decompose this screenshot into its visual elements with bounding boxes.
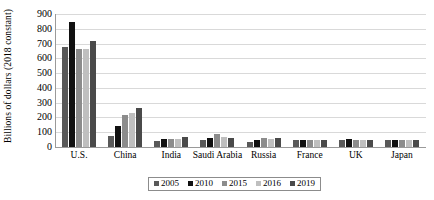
bar [321, 140, 327, 147]
bar [367, 140, 373, 147]
bar [161, 139, 167, 147]
bar [90, 41, 96, 147]
bar [175, 139, 181, 147]
bar [314, 140, 320, 147]
bar [300, 140, 306, 147]
bar [307, 140, 313, 147]
bar [122, 115, 128, 147]
bar [214, 134, 220, 147]
bar [108, 136, 114, 147]
bar-group [333, 14, 379, 147]
legend-label: 2005 [161, 179, 179, 188]
y-axis-tick-label: 0 [20, 142, 52, 152]
bar [154, 141, 160, 147]
legend-label: 2010 [195, 179, 213, 188]
y-axis-title: Billions of dollars (2018 constant) [0, 0, 16, 152]
bar-group [56, 14, 102, 147]
bar [136, 108, 142, 147]
bar [83, 49, 89, 147]
x-axis-tick-label: France [297, 150, 323, 160]
bar [346, 139, 352, 147]
x-axis-tick-label: India [162, 150, 182, 160]
bar-group [194, 14, 240, 147]
bar [221, 137, 227, 147]
legend-swatch-icon [154, 181, 159, 186]
legend-item[interactable]: 2015 [222, 179, 247, 188]
legend-swatch-icon [222, 181, 227, 186]
bar [200, 140, 206, 147]
x-axis-tick-label: UK [349, 150, 363, 160]
bar-group [148, 14, 194, 147]
bar-group [287, 14, 333, 147]
bar [182, 137, 188, 147]
bar [247, 142, 253, 147]
bar [392, 140, 398, 147]
y-axis-tick-label: 600 [20, 53, 52, 63]
y-axis-tick-label: 100 [20, 127, 52, 137]
bar [293, 140, 299, 147]
legend-item[interactable]: 2016 [256, 179, 281, 188]
x-axis-tick-label: Russia [251, 150, 276, 160]
bar [268, 139, 274, 147]
legend-label: 2019 [297, 179, 315, 188]
bar-chart: Billions of dollars (2018 constant) 0100… [0, 0, 434, 200]
bar [275, 138, 281, 147]
y-axis-tick-label: 400 [20, 83, 52, 93]
bar [353, 140, 359, 147]
bar [413, 140, 419, 147]
x-axis-tick-label: Japan [391, 150, 413, 160]
y-axis-tick-label: 800 [20, 24, 52, 34]
legend: 20052010201520162019 [148, 177, 321, 191]
legend-label: 2015 [229, 179, 247, 188]
y-axis-tick-label: 900 [20, 9, 52, 19]
bar [168, 139, 174, 147]
bar [399, 140, 405, 147]
legend-item[interactable]: 2005 [154, 179, 179, 188]
bar-groups [56, 14, 425, 147]
bar [385, 140, 391, 147]
legend-swatch-icon [188, 181, 193, 186]
legend-label: 2016 [263, 179, 281, 188]
y-axis-tick-label: 700 [20, 39, 52, 49]
bar-group [241, 14, 287, 147]
bar-group [102, 14, 148, 147]
bar [76, 49, 82, 147]
x-axis-tick-label: U.S. [71, 150, 88, 160]
y-axis-tick-label: 300 [20, 98, 52, 108]
x-axis-tick-label: China [114, 150, 137, 160]
bar [254, 140, 260, 147]
legend-swatch-icon [256, 181, 261, 186]
bar [406, 140, 412, 147]
legend-swatch-icon [290, 181, 295, 186]
bar-group [379, 14, 425, 147]
y-axis-tick-label: 500 [20, 68, 52, 78]
bar [360, 140, 366, 147]
bar [339, 140, 345, 147]
y-axis-tick-label: 200 [20, 112, 52, 122]
legend-item[interactable]: 2010 [188, 179, 213, 188]
bar [228, 138, 234, 147]
bar [207, 138, 213, 147]
bar [261, 138, 267, 147]
legend-item[interactable]: 2019 [290, 179, 315, 188]
x-axis-tick-labels: U.S.ChinaIndiaSaudi ArabiaRussiaFranceUK… [56, 150, 425, 164]
bar [62, 47, 68, 147]
bar [129, 113, 135, 147]
x-axis-tick-label: Saudi Arabia [193, 150, 242, 160]
bar [69, 22, 75, 147]
y-axis-title-text: Billions of dollars (2018 constant) [3, 9, 13, 143]
bar [115, 126, 121, 147]
